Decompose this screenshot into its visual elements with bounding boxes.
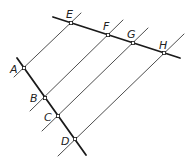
point-c-marker [56, 114, 59, 117]
geometry-diagram: ABCDEFGH [0, 0, 192, 164]
point-d-marker [73, 137, 76, 140]
point-a-marker [22, 66, 25, 69]
point-e-marker [69, 21, 72, 24]
point-g-marker [131, 41, 134, 44]
point-e-label: E [66, 8, 73, 21]
point-f-marker [106, 33, 109, 36]
point-b-marker [43, 96, 46, 99]
point-h-label: H [159, 39, 167, 52]
transversal-lines [17, 17, 180, 155]
point-d-label: D [61, 135, 69, 148]
point-c-label: C [44, 111, 52, 124]
parallel-lines [14, 13, 184, 156]
point-g-label: G [127, 28, 136, 41]
point-a-label: A [9, 63, 18, 76]
point-f-label: F [103, 20, 110, 33]
point-b-label: B [30, 92, 38, 105]
